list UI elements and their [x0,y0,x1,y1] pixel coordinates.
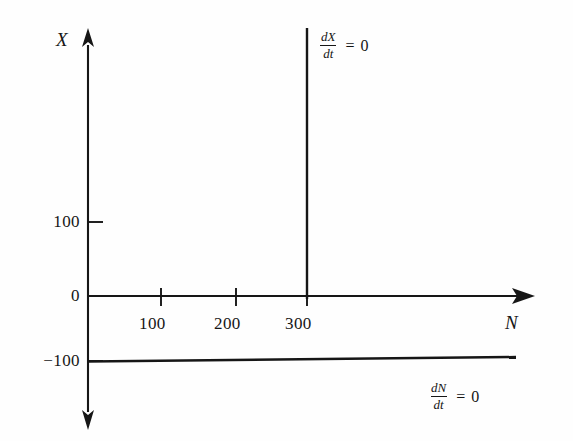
equals-sign: = [345,38,354,54]
equals-sign: = [456,389,465,405]
x-tick-label-200: 200 [214,315,241,332]
annotation-value: 0 [471,389,479,405]
x-tick-label-100: 100 [139,315,166,332]
annotation-dn-dt-zero: dN dt = 0 [428,381,479,412]
phase-plane-figure: X N 100 0 −100 100 200 300 dX dt = 0 dN … [0,0,573,441]
y-axis-arrow-down-icon [82,410,94,430]
isocline-dn-dt-line [88,357,516,362]
y-axis-label: X [56,30,68,49]
fraction-dx-dt: dX dt [318,30,338,61]
y-tick-label-0: 0 [24,287,80,304]
annotation-dx-dt-zero: dX dt = 0 [318,30,368,61]
y-tick-label-minus-100: −100 [12,352,80,369]
fraction-dn-dt: dN dt [428,381,449,412]
annotation-value: 0 [360,38,368,54]
fraction-denominator: dt [320,45,336,61]
plot-canvas [0,0,573,441]
y-tick-marks [88,222,103,361]
y-tick-label-100: 100 [24,213,80,230]
x-axis-label: N [505,313,518,332]
fraction-numerator: dX [318,30,338,45]
fraction-denominator: dt [431,396,447,412]
x-tick-label-300: 300 [285,315,312,332]
x-axis [88,288,535,304]
y-axis-arrow-up-icon [82,28,94,47]
fraction-numerator: dN [428,381,449,396]
y-axis [82,28,94,430]
